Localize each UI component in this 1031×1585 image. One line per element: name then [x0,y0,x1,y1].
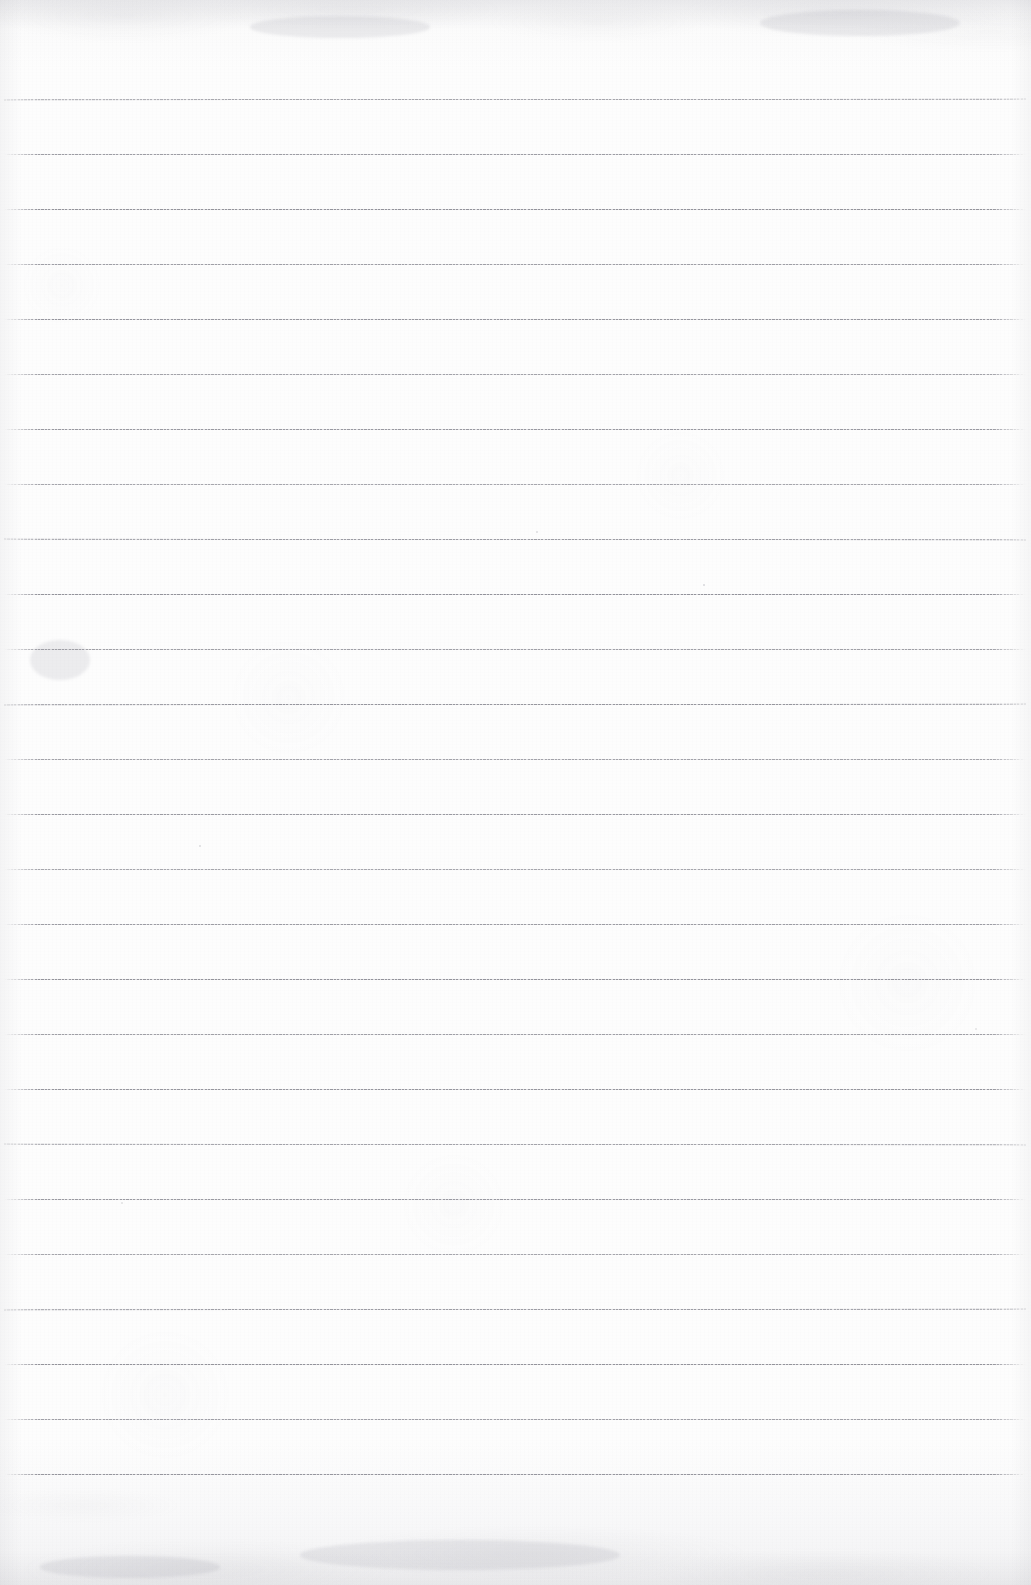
lined-paper-page [0,0,1031,1585]
paper-edge-shading [0,0,1031,1585]
